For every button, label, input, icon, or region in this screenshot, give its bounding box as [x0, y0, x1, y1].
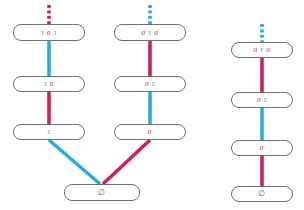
token-sigma: σ	[260, 143, 264, 152]
node-sigma-tau-right[interactable]: σ τ	[231, 92, 293, 108]
token-tau: τ	[41, 28, 44, 37]
token-sigma: σ	[145, 79, 149, 88]
node-label: ∅	[98, 189, 106, 197]
token-empty-set: ∅	[98, 188, 106, 197]
node-tau-left[interactable]: τ	[13, 124, 85, 140]
node-label: τ	[47, 128, 50, 136]
token-tau: τ	[54, 28, 57, 37]
token-tau: τ	[44, 79, 47, 88]
token-sigma: σ	[47, 28, 51, 37]
diagram-canvas: τ σ τ τ σ τ σ τ σ σ τ σ	[0, 0, 304, 210]
node-sigma-right[interactable]: σ	[231, 140, 293, 156]
edge-L3-BOTTOM	[49, 140, 100, 184]
token-tau: τ	[264, 95, 267, 104]
node-empty-set-bottom[interactable]: ∅	[64, 184, 140, 201]
node-label: σ	[260, 144, 264, 152]
edge-M3-BOTTOM	[103, 140, 150, 184]
node-label: τ σ	[44, 80, 54, 88]
node-tau-sigma-left[interactable]: τ σ	[13, 76, 85, 92]
token-empty-set: ∅	[258, 189, 266, 198]
node-sigma-tau-middle[interactable]: σ τ	[114, 76, 186, 92]
token-sigma: σ	[154, 28, 158, 37]
node-label: τ σ τ	[41, 29, 57, 37]
token-sigma: σ	[148, 127, 152, 136]
node-empty-set-right[interactable]: ∅	[231, 186, 293, 202]
node-label: σ	[148, 128, 152, 136]
token-sigma: σ	[254, 45, 258, 54]
token-tau: τ	[47, 127, 50, 136]
token-tau: τ	[260, 45, 263, 54]
node-tau-sigma-tau-left[interactable]: τ σ τ	[13, 24, 85, 41]
token-sigma: σ	[266, 45, 270, 54]
node-sigma-middle[interactable]: σ	[114, 124, 186, 140]
token-tau: τ	[152, 79, 155, 88]
node-label: σ τ σ	[254, 46, 271, 54]
node-sigma-tau-sigma-right[interactable]: σ τ σ	[231, 42, 293, 58]
token-sigma: σ	[257, 95, 261, 104]
token-tau: τ	[148, 28, 151, 37]
token-sigma: σ	[142, 28, 146, 37]
node-label: σ τ	[145, 80, 155, 88]
node-sigma-tau-sigma-middle[interactable]: σ τ σ	[114, 24, 186, 41]
token-sigma: σ	[50, 79, 54, 88]
node-label: σ τ	[257, 96, 267, 104]
node-label: σ τ σ	[142, 29, 159, 37]
node-label: ∅	[258, 190, 266, 198]
